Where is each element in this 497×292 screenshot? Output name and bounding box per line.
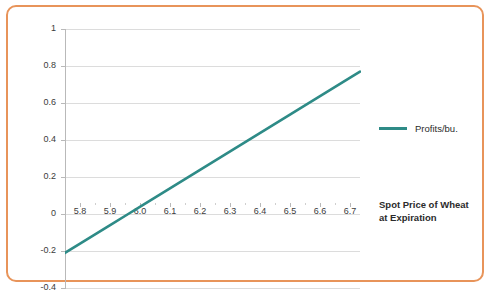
y-tick-label: 1 — [12, 23, 56, 33]
legend: Profits/bu. — [379, 123, 458, 134]
legend-label-profits: Profits/bu. — [415, 123, 458, 134]
y-tick-label: -0.4 — [12, 282, 56, 292]
y-tick-label: 0.8 — [12, 60, 56, 70]
series-profits-per-bushel — [65, 29, 361, 289]
chart-card: 1 0.8 0.6 0.4 0.2 0 -0.2 -0.4 5.8 5.9 6.… — [6, 5, 484, 282]
x-axis-title: Spot Price of Wheat at Expiration — [379, 199, 483, 224]
legend-swatch-profits — [379, 127, 407, 130]
y-tick-label: 0.2 — [12, 171, 56, 181]
y-tick-label: -0.2 — [12, 245, 56, 255]
x-axis-title-line1: Spot Price of Wheat — [379, 199, 483, 212]
y-tick-label: 0.4 — [12, 134, 56, 144]
x-axis-title-line2: at Expiration — [379, 212, 483, 225]
y-tick-label: 0.6 — [12, 97, 56, 107]
y-tick-label: 0 — [12, 208, 56, 218]
